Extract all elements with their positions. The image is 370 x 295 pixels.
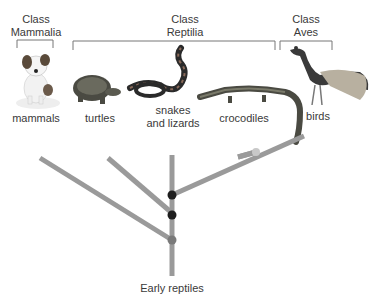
label-snakes-and-lizards: snakes and lizards bbox=[140, 104, 206, 130]
label-crocodiles: crocodiles bbox=[212, 112, 276, 125]
label-snakes-line2: and lizards bbox=[140, 117, 206, 130]
class-reptilia-line1: Class bbox=[150, 13, 220, 26]
dog-icon bbox=[16, 54, 60, 109]
class-aves-label: Class Aves bbox=[278, 13, 334, 39]
class-aves-line2: Aves bbox=[278, 26, 334, 39]
class-mammalia-line1: Class bbox=[2, 13, 70, 26]
peacock-icon bbox=[290, 46, 368, 105]
bracket-reptilia bbox=[73, 41, 275, 50]
class-mammalia-line2: Mammalia bbox=[2, 26, 70, 39]
node-squamates bbox=[168, 191, 177, 200]
node-turtles bbox=[168, 211, 177, 220]
snake-icon bbox=[130, 48, 185, 96]
label-snakes-line1: snakes bbox=[140, 104, 206, 117]
label-turtles: turtles bbox=[74, 112, 126, 125]
class-aves-line1: Class bbox=[278, 13, 334, 26]
turtle-icon bbox=[73, 75, 121, 104]
bracket-mammalia bbox=[17, 40, 53, 48]
label-birds: birds bbox=[298, 110, 338, 123]
node-crocodiles bbox=[252, 148, 260, 156]
label-early-reptiles: Early reptiles bbox=[122, 282, 222, 295]
class-reptilia-line2: Reptilia bbox=[150, 26, 220, 39]
bracket-aves bbox=[280, 41, 332, 50]
label-mammals: mammals bbox=[4, 112, 68, 125]
node-mammals bbox=[168, 236, 177, 245]
class-reptilia-label: Class Reptilia bbox=[150, 13, 220, 39]
branch-archosaurs bbox=[172, 136, 304, 195]
class-mammalia-label: Class Mammalia bbox=[2, 13, 70, 39]
